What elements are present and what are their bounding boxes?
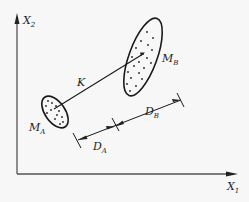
x-axis bbox=[17, 172, 238, 177]
centroid-connector: K bbox=[54, 53, 145, 110]
connector-label: K bbox=[76, 76, 86, 89]
tick-start bbox=[73, 133, 81, 148]
distance-b-label: DB bbox=[144, 105, 159, 120]
y-axis-label: X2 bbox=[22, 14, 36, 29]
cluster-distance-diagram: X2 X1 K bbox=[0, 0, 249, 202]
dimension-line bbox=[73, 93, 184, 148]
y-axis bbox=[15, 13, 20, 174]
cluster-a-label: MA bbox=[28, 121, 45, 136]
x-axis-arrow-icon bbox=[226, 172, 238, 177]
distance-a-label: DA bbox=[92, 140, 107, 155]
y-axis-arrow-icon bbox=[15, 13, 20, 24]
cluster-b-label: MB bbox=[161, 52, 178, 67]
x-axis-label: X1 bbox=[226, 180, 239, 195]
cluster-a bbox=[36, 92, 73, 133]
